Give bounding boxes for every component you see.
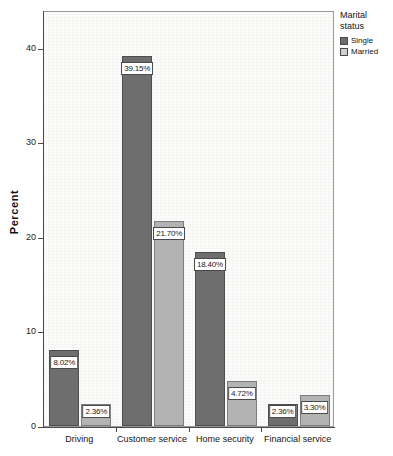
- legend-title-line2: status: [340, 21, 393, 32]
- legend-label-married: Married: [351, 47, 378, 56]
- legend-entry-single: Single: [340, 36, 393, 45]
- plot-background-texture: [44, 12, 333, 426]
- bar-home-security-single: [195, 252, 225, 426]
- legend-entry-married: Married: [340, 47, 393, 56]
- y-tick-label-10: 10: [26, 327, 36, 336]
- y-tick-label-40: 40: [26, 44, 36, 53]
- data-label-home-security-married: 4.72%: [228, 387, 256, 400]
- x-tick-2: [261, 428, 262, 432]
- x-tick-0: [116, 428, 117, 432]
- data-label-home-security-single: 18.40%: [194, 258, 226, 271]
- x-tick-label-customer-service: Customer service: [117, 434, 187, 445]
- data-label-driving-married: 2.36%: [83, 405, 111, 418]
- legend: Marital status SingleMarried: [340, 10, 393, 58]
- y-tick-30: [38, 143, 43, 144]
- data-label-driving-single: 8.02%: [51, 356, 79, 369]
- y-tick-label-20: 20: [26, 233, 36, 242]
- data-label-financial-service-single: 2.36%: [269, 405, 297, 418]
- x-tick-label-financial-service: Financial service: [264, 434, 331, 445]
- legend-title: Marital status: [340, 10, 393, 32]
- y-tick-label-30: 30: [26, 138, 36, 147]
- plot-area: 8.02%2.36%39.15%21.70%18.40%4.72%2.36%3.…: [43, 11, 334, 427]
- y-tick-label-0: 0: [31, 422, 36, 431]
- x-tick-label-driving: Driving: [65, 434, 93, 445]
- data-label-customer-service-married: 21.70%: [153, 227, 185, 240]
- data-label-financial-service-married: 3.30%: [301, 401, 329, 414]
- y-axis-title: Percent: [8, 172, 20, 252]
- bar-customer-service-married: [154, 221, 184, 426]
- legend-swatch-icon-married: [340, 48, 348, 56]
- legend-label-single: Single: [351, 36, 373, 45]
- y-tick-0: [38, 427, 43, 428]
- bar-customer-service-single: [122, 56, 152, 426]
- y-axis-line: [43, 11, 44, 428]
- y-tick-10: [38, 332, 43, 333]
- data-label-customer-service-single: 39.15%: [121, 62, 153, 75]
- legend-title-line1: Marital: [340, 10, 393, 21]
- y-tick-40: [38, 49, 43, 50]
- legend-swatch-icon-single: [340, 37, 348, 45]
- bar-chart: 8.02%2.36%39.15%21.70%18.40%4.72%2.36%3.…: [0, 0, 393, 456]
- y-tick-20: [38, 238, 43, 239]
- legend-entries: SingleMarried: [340, 36, 393, 56]
- x-tick-label-home-security: Home security: [196, 434, 254, 445]
- x-tick-1: [189, 428, 190, 432]
